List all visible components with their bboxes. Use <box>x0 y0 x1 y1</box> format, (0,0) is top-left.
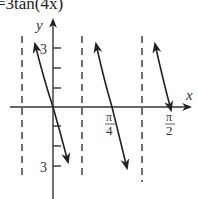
pi2-denominator: 2 <box>166 123 173 138</box>
branch-3 <box>155 44 171 110</box>
y-axis-label: y <box>34 17 43 33</box>
curves <box>35 44 171 168</box>
branch-2 <box>96 44 127 168</box>
branch-1 <box>35 44 68 162</box>
x-axis-label: x <box>185 87 193 103</box>
y-tick-label-top: 3 <box>40 42 47 57</box>
tangent-graph: y x 3 3 π 4 π 2 <box>0 0 198 199</box>
pi4-numerator: π <box>106 110 112 124</box>
pi2-numerator: π <box>166 110 172 124</box>
pi4-denominator: 4 <box>106 123 113 138</box>
y-tick-label-bottom: 3 <box>40 160 47 175</box>
